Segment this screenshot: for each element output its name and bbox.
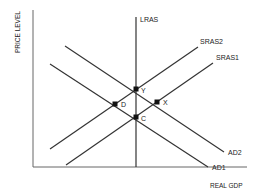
point-c-marker [134,115,139,120]
sras2-label: SRAS2 [200,38,223,45]
lras-label: LRAS [140,16,159,23]
point-y-marker [134,87,139,92]
sras1-label: SRAS1 [216,54,239,61]
x-axis-label: REAL GDP [210,182,243,189]
point-y-label: Y [141,87,146,94]
point-x-label: X [163,99,168,106]
point-c-label: C [141,115,146,122]
ad-as-diagram: Y D X C LRAS SRAS2 SRAS1 AD2 AD1 PRICE L… [0,0,259,193]
sras2-curve [50,47,198,149]
ad2-label: AD2 [228,149,242,156]
ad1-curve [50,64,208,167]
ad2-curve [65,46,224,152]
sras1-curve [66,63,213,165]
point-d-label: D [121,101,126,108]
point-d-marker [113,102,118,107]
diagram-canvas: Y D X C LRAS SRAS2 SRAS1 AD2 AD1 PRICE L… [0,0,259,193]
ad1-label: AD1 [212,164,226,171]
y-axis-label: PRICE LEVEL [14,11,21,53]
point-x-marker [155,100,160,105]
